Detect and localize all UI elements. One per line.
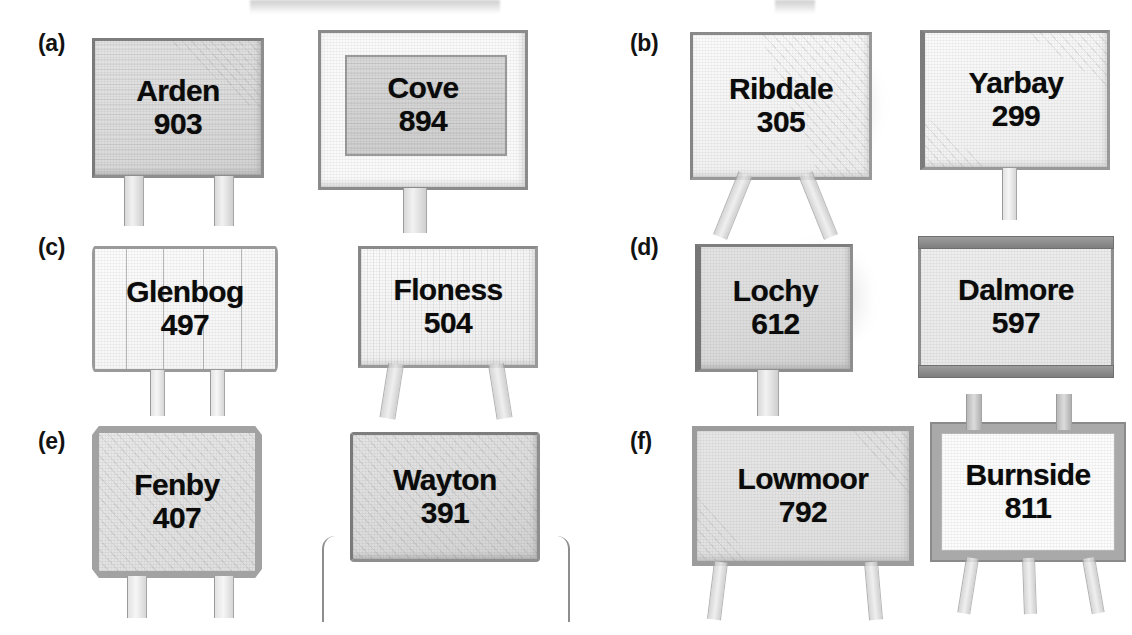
sign-board: Burnside 811 xyxy=(930,422,1126,562)
sign-legend: Cove 894 xyxy=(388,73,459,136)
sign-board: Wayton 391 xyxy=(350,432,540,562)
sign-legend: Dalmore 597 xyxy=(958,275,1074,338)
sign-glenbog[interactable]: Glenbog 497 xyxy=(92,246,278,372)
sign-name: Dalmore xyxy=(958,275,1074,306)
panel-c: (c) Glenbog 497 xyxy=(0,218,566,414)
sign-legend: Glenbog 497 xyxy=(126,277,243,340)
sign-board: Dalmore 597 xyxy=(918,236,1114,378)
sign-legend: Arden 903 xyxy=(136,76,220,139)
sign-value: 903 xyxy=(136,109,220,140)
panel-label-c: (c) xyxy=(38,234,65,261)
sign-board: Arden 903 xyxy=(92,38,264,178)
sign-dalmore[interactable]: Dalmore 597 xyxy=(918,236,1114,378)
panel-row-2: (c) Glenbog 497 xyxy=(0,218,1132,414)
sign-burnside[interactable]: Burnside 811 xyxy=(930,422,1126,562)
sign-name: Wayton xyxy=(393,465,497,496)
panel-label-f: (f) xyxy=(630,428,652,455)
sign-board: Yarbay 299 xyxy=(920,30,1110,170)
sign-name: Ribdale xyxy=(729,74,833,105)
sign-top-bar xyxy=(918,236,1114,249)
sign-post xyxy=(150,370,165,416)
sign-legend: Floness 504 xyxy=(393,275,502,338)
sign-value: 597 xyxy=(958,308,1074,339)
sign-pairs-figure: (a) Arden 903 xyxy=(0,0,1132,635)
sign-arden[interactable]: Arden 903 xyxy=(92,38,264,178)
sign-ribdale[interactable]: Ribdale 305 xyxy=(690,32,872,180)
panel-label-b: (b) xyxy=(630,30,658,57)
sign-leg xyxy=(1082,557,1105,614)
sign-board: Lochy 612 xyxy=(695,244,853,372)
sign-post xyxy=(124,176,144,226)
sign-leg xyxy=(322,536,350,622)
sign-value: 391 xyxy=(393,498,497,529)
sign-value: 792 xyxy=(738,497,869,528)
sign-name: Lochy xyxy=(733,276,818,307)
sign-value: 504 xyxy=(393,308,502,339)
sign-post xyxy=(966,394,982,430)
sign-floness[interactable]: Floness 504 xyxy=(358,246,538,368)
sign-name: Fenby xyxy=(134,470,219,501)
sign-name: Cove xyxy=(388,73,459,104)
panel-label-a: (a) xyxy=(38,30,65,57)
sign-leg xyxy=(542,536,570,622)
sign-wayton[interactable]: Wayton 391 xyxy=(350,432,540,562)
panel-a: (a) Arden 903 xyxy=(0,0,566,220)
sign-leg xyxy=(707,561,728,620)
sign-post xyxy=(210,370,225,416)
sign-leg xyxy=(864,561,883,620)
sign-board: Cove 894 xyxy=(318,30,528,190)
sign-post xyxy=(214,576,234,618)
sign-name: Floness xyxy=(393,275,502,306)
sign-name: Lowmoor xyxy=(738,464,869,495)
sign-value: 894 xyxy=(388,106,459,137)
sign-legend: Yarbay 299 xyxy=(969,68,1064,131)
sign-post xyxy=(403,188,427,233)
panel-d: (d) Lochy 612 xyxy=(600,218,1132,414)
sign-leg xyxy=(1022,558,1037,614)
sign-yarbay[interactable]: Yarbay 299 xyxy=(920,30,1110,170)
sign-legend: Lowmoor 792 xyxy=(738,464,869,527)
panel-label-d: (d) xyxy=(630,234,658,261)
sign-board: Lowmoor 792 xyxy=(692,426,914,566)
sign-value: 811 xyxy=(965,493,1090,524)
sign-name: Arden xyxy=(136,76,220,107)
sign-lochy[interactable]: Lochy 612 xyxy=(695,244,853,372)
panel-b: (b) Ribdale 305 xyxy=(600,0,1132,220)
sign-name: Yarbay xyxy=(969,68,1064,99)
sign-value: 612 xyxy=(733,309,818,340)
sign-legend: Lochy 612 xyxy=(733,276,818,339)
sign-post xyxy=(1002,168,1017,220)
sign-board: Floness 504 xyxy=(358,246,538,368)
sign-post xyxy=(757,370,779,416)
sign-post xyxy=(1056,394,1072,430)
sign-post xyxy=(127,576,147,618)
sign-legend: Fenby 407 xyxy=(134,470,219,533)
panel-label-e: (e) xyxy=(38,428,65,455)
sign-bottom-bar xyxy=(918,365,1114,378)
sign-legend: Burnside 811 xyxy=(965,460,1090,523)
panel-e: (e) Fenby 407 xyxy=(0,410,566,635)
sign-name: Burnside xyxy=(965,460,1090,491)
sign-legend: Wayton 391 xyxy=(393,465,497,528)
sign-post xyxy=(214,176,234,226)
sign-lowmoor[interactable]: Lowmoor 792 xyxy=(692,426,914,566)
sign-name: Glenbog xyxy=(126,277,243,308)
sign-cove[interactable]: Cove 894 xyxy=(318,30,528,190)
sign-value: 407 xyxy=(134,503,219,534)
sign-legend: Ribdale 305 xyxy=(729,74,833,137)
sign-value: 497 xyxy=(126,310,243,341)
sign-board: Glenbog 497 xyxy=(92,246,278,372)
sign-board: Ribdale 305 xyxy=(690,32,872,180)
sign-fenby[interactable]: Fenby 407 xyxy=(92,426,262,578)
sign-board: Fenby 407 xyxy=(92,426,262,578)
panel-row-1: (a) Arden 903 xyxy=(0,0,1132,220)
sign-leg xyxy=(957,557,979,614)
panel-row-3: (e) Fenby 407 xyxy=(0,410,1132,635)
sign-value: 305 xyxy=(729,107,833,138)
sign-value: 299 xyxy=(969,101,1064,132)
panel-f: (f) Lowmoor 792 xyxy=(600,410,1132,635)
